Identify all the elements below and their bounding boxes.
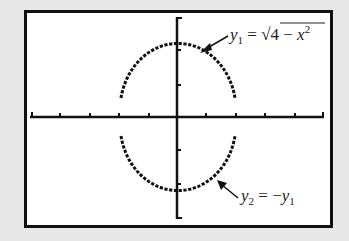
label-y1: y1 = √4 − x2: [228, 23, 310, 46]
graph-canvas: y1 = √4 − x2 y2 = −y1: [0, 0, 349, 241]
arrow-y2: [217, 180, 238, 198]
label-y2: y2 = −y1: [239, 186, 295, 207]
arrow-y1: [200, 36, 228, 53]
